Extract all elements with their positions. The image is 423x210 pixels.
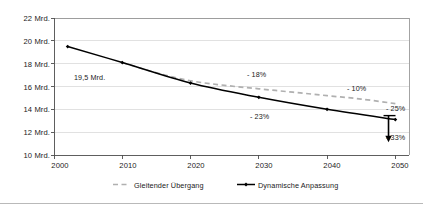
legend-label-dynamische-anpassung: Dynamische Anpassung: [258, 181, 338, 190]
annotation-minus-33: - 33%: [386, 133, 405, 142]
x-tick-label: 2000: [43, 161, 77, 170]
annotation-minus-18: - 18%: [247, 70, 266, 79]
chart-figure: 22 Mrd. 20 Mrd. 18 Mrd. 16 Mrd. 14 Mrd. …: [0, 0, 423, 210]
line-chart-canvas: [0, 0, 423, 210]
y-axis-ticks: [51, 18, 55, 155]
annotation-minus-10: - 10%: [347, 84, 366, 93]
x-tick-label: 2050: [383, 161, 417, 170]
y-tick-label: 14 Mrd.: [2, 105, 50, 114]
x-tick-label: 2020: [179, 161, 213, 170]
annotation-minus-25: - 25%: [386, 104, 405, 113]
annotation-minus-23: - 23%: [250, 112, 269, 121]
x-tick-label: 2040: [315, 161, 349, 170]
legend-label-gleitender-uebergang: Gleitender Übergang: [134, 181, 204, 190]
y-tick-label: 12 Mrd.: [2, 128, 50, 137]
y-tick-label: 22 Mrd.: [2, 14, 50, 23]
x-tick-label: 2030: [247, 161, 281, 170]
y-tick-label: 10 Mrd.: [2, 151, 50, 160]
annotation-baseline-value: 19,5 Mrd.: [74, 73, 105, 82]
y-tick-label: 20 Mrd.: [2, 37, 50, 46]
x-axis-ticks: [54, 155, 395, 159]
y-tick-label: 18 Mrd.: [2, 60, 50, 69]
bottom-divider: [0, 203, 423, 204]
x-tick-label: 2010: [111, 161, 145, 170]
y-tick-label: 16 Mrd.: [2, 83, 50, 92]
